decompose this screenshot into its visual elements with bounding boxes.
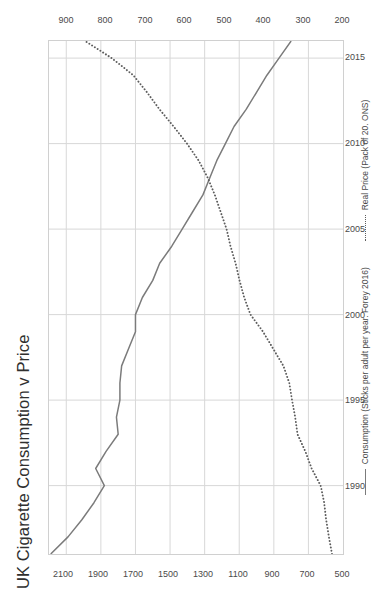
secondary-tick-600: 600 (170, 15, 198, 25)
primary-tick-2100: 2100 (48, 569, 78, 579)
secondary-tick-500: 500 (210, 15, 238, 25)
rotated-figure-canvas: UK Cigarette Consumption v Price 1990199… (0, 0, 391, 607)
legend-swatch-solid (365, 469, 366, 495)
legend-item-1: Real Price (Pack of 20. ONS) (360, 100, 370, 242)
primary-tick-1900: 1900 (83, 569, 113, 579)
primary-tick-900: 900 (257, 569, 287, 579)
secondary-tick-200: 200 (328, 15, 356, 25)
legend-swatch-dotted (365, 215, 366, 241)
plot-area (48, 40, 344, 555)
chart-title: UK Cigarette Consumption v Price (14, 335, 33, 589)
primary-tick-1100: 1100 (223, 569, 253, 579)
primary-tick-1500: 1500 (153, 569, 183, 579)
secondary-tick-700: 700 (131, 15, 159, 25)
secondary-tick-300: 300 (289, 15, 317, 25)
secondary-tick-900: 900 (52, 15, 80, 25)
legend-label: Consumption (Sticks per adult per year. … (360, 267, 370, 464)
legend-label: Real Price (Pack of 20. ONS) (360, 100, 370, 211)
secondary-tick-800: 800 (91, 15, 119, 25)
primary-tick-1300: 1300 (188, 569, 218, 579)
primary-tick-1700: 1700 (118, 569, 148, 579)
chart-legend: Consumption (Sticks per adult per year. … (360, 40, 370, 555)
legend-item-0: Consumption (Sticks per adult per year. … (360, 267, 370, 495)
secondary-tick-400: 400 (249, 15, 277, 25)
series-lines (49, 41, 343, 554)
primary-tick-700: 700 (292, 569, 322, 579)
primary-tick-500: 500 (327, 569, 357, 579)
